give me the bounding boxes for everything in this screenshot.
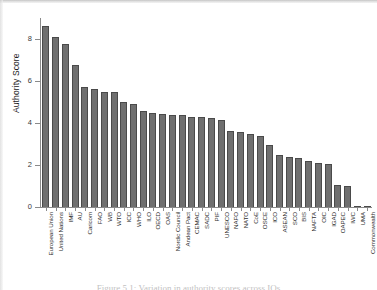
bar-slot xyxy=(343,18,353,207)
bar-slot xyxy=(265,18,275,207)
x-axis-category-label: ASEAN xyxy=(282,212,288,233)
bar xyxy=(52,37,59,207)
x-axis-category-label: AU xyxy=(77,212,83,220)
x-axis-category-label: UMA xyxy=(360,212,366,226)
x-axis-category-label-wrap: Caricom xyxy=(87,212,93,234)
bar-slot xyxy=(304,18,314,207)
x-axis-tick xyxy=(114,208,115,211)
bar-slot xyxy=(90,18,100,207)
bar-slot xyxy=(275,18,285,207)
x-axis-category-label-wrap: NAFO xyxy=(233,212,239,229)
x-axis-category-label: Nordic Council xyxy=(175,212,181,251)
x-axis-category-label-wrap: SCO xyxy=(292,212,298,225)
bar xyxy=(101,92,108,208)
x-axis-category-label: ICO xyxy=(272,212,278,223)
x-axis-tick xyxy=(367,208,368,211)
x-axis-tick xyxy=(163,208,164,211)
x-axis-category-label-wrap: WHO xyxy=(136,212,142,227)
bar-slot xyxy=(119,18,129,207)
bar xyxy=(286,157,293,207)
x-axis-category-label: IWC xyxy=(350,212,356,224)
x-axis-tick xyxy=(46,208,47,211)
bar xyxy=(227,131,234,207)
bar xyxy=(62,44,69,207)
x-axis-tick xyxy=(85,208,86,211)
x-axis-category-label-wrap: Commonwealth xyxy=(370,212,376,254)
bar-slot xyxy=(353,18,363,207)
y-axis-tick xyxy=(35,39,40,40)
bar xyxy=(305,161,312,207)
x-axis-category-label-wrap: OIC xyxy=(321,212,327,223)
x-axis-category-label-wrap: UNESCO xyxy=(224,212,230,238)
x-axis-category-label-wrap: AU xyxy=(77,212,83,220)
bar-slot xyxy=(255,18,265,207)
x-axis-category-label: OIC xyxy=(321,212,327,223)
bar-slot xyxy=(284,18,294,207)
x-axis-category-label-wrap: OSCE xyxy=(262,212,268,229)
bar-slot xyxy=(70,18,80,207)
bar xyxy=(111,92,118,208)
bar xyxy=(169,115,176,207)
x-axis-tick xyxy=(299,208,300,211)
bar-slot xyxy=(226,18,236,207)
bar xyxy=(179,115,186,207)
x-axis-category-label: NAFO xyxy=(233,212,239,229)
y-axis-tick-label: 0 xyxy=(2,203,32,211)
x-axis-category-label-wrap: UMA xyxy=(360,212,366,226)
x-axis-category-label-wrap: PIF xyxy=(214,212,220,221)
x-axis-tick xyxy=(153,208,154,211)
bar xyxy=(344,186,351,207)
bar-slot xyxy=(99,18,109,207)
x-axis-category-label: OECD xyxy=(155,212,161,230)
bar xyxy=(120,102,127,207)
x-axis-category-label: OSCE xyxy=(262,212,268,229)
x-axis-category-label-wrap: BIS xyxy=(301,212,307,222)
bar xyxy=(149,113,156,208)
bar xyxy=(295,158,302,207)
x-axis-category-label: FAO xyxy=(97,212,103,224)
bar xyxy=(247,134,254,208)
bar-slot xyxy=(236,18,246,207)
x-axis-tick xyxy=(202,208,203,211)
bar-chart-figure: 02468 European UnionUnited NationsIMFAUC… xyxy=(0,0,377,290)
x-axis-tick xyxy=(75,208,76,211)
bar xyxy=(159,114,166,207)
y-axis-tick-label: 4 xyxy=(2,119,32,127)
bar xyxy=(72,65,79,207)
bar xyxy=(218,120,225,207)
y-axis-tick xyxy=(35,81,40,82)
x-axis-tick xyxy=(231,208,232,211)
x-axis-category-label: United Nations xyxy=(58,212,64,251)
bar xyxy=(315,163,322,207)
x-axis-category-label-wrap: OECD xyxy=(155,212,161,230)
bar-slot xyxy=(51,18,61,207)
bar-slot xyxy=(41,18,51,207)
x-axis-tick xyxy=(309,208,310,211)
x-axis-category-label-wrap: OAS xyxy=(165,212,171,225)
x-axis-category-label-wrap: NAFTA xyxy=(311,212,317,231)
x-axis-category-label: NATO xyxy=(243,212,249,228)
x-axis-tick xyxy=(338,208,339,211)
bar-slot xyxy=(158,18,168,207)
bar-slot xyxy=(187,18,197,207)
y-axis-tick xyxy=(35,165,40,166)
x-axis-tick xyxy=(260,208,261,211)
x-axis-line xyxy=(40,207,372,208)
bar-slot xyxy=(168,18,178,207)
bar xyxy=(140,111,147,207)
x-axis-category-label-wrap: ASEAN xyxy=(282,212,288,233)
bar-slot xyxy=(294,18,304,207)
y-axis-tick-label: 2 xyxy=(2,161,32,169)
x-axis-category-label: BIS xyxy=(301,212,307,222)
y-axis-tick xyxy=(35,123,40,124)
x-axis-category-label-wrap: SADC xyxy=(204,212,210,229)
bar xyxy=(334,185,341,207)
x-axis-category-label: ICC xyxy=(126,212,132,222)
bar xyxy=(276,155,283,208)
x-axis-tick xyxy=(133,208,134,211)
bar-slot xyxy=(138,18,148,207)
x-axis-category-label: PIF xyxy=(214,212,220,221)
x-axis-category-label: IMF xyxy=(68,212,74,222)
x-axis-category-label-wrap: Nordic Council xyxy=(175,212,181,251)
x-axis-category-label-wrap: United Nations xyxy=(58,212,64,251)
